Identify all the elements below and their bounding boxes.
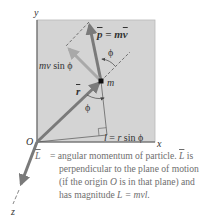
perp-component-sin: sin ϕ xyxy=(51,60,73,71)
origin-label: O xyxy=(26,137,33,147)
angle-label-bottom: ϕ xyxy=(85,103,90,113)
caption-line-1-prefix: = angular momentum of particle. xyxy=(50,150,179,161)
caption-line-4-formula: L = mvl. xyxy=(117,189,150,200)
caption-line-1-suffix: is xyxy=(184,150,193,161)
lever-arm-sin: sin ϕ xyxy=(121,132,143,143)
caption-line-3-symbol: O xyxy=(110,176,117,187)
z-axis-dashed xyxy=(13,190,19,204)
caption-line-3: (if the origin O is in that plane) and xyxy=(50,175,216,188)
mass-point xyxy=(99,79,104,84)
position-vector-label: r xyxy=(76,86,80,97)
caption-line-2: perpendicular to the plane of motion xyxy=(50,162,216,175)
mass-label: m xyxy=(107,78,114,88)
y-axis-label: y xyxy=(34,8,38,18)
angular-momentum-label: L xyxy=(35,151,41,161)
momentum-symbol-v: v xyxy=(123,28,128,40)
caption: = angular momentum of particle. L is per… xyxy=(50,149,216,201)
lever-arm-eq: = xyxy=(107,132,118,143)
perp-component-mv: mv xyxy=(39,60,51,71)
caption-line-4-prefix: has magnitude xyxy=(59,189,117,200)
momentum-equals: = m xyxy=(103,28,123,40)
perp-component-label: mv sin ϕ xyxy=(39,61,73,71)
angle-label-top: ϕ xyxy=(108,48,113,58)
lever-arm-label: l = r sin ϕ xyxy=(104,133,143,143)
z-axis-label: z xyxy=(11,207,15,217)
caption-line-3-prefix: (if the origin xyxy=(59,176,110,187)
momentum-label: p = mv xyxy=(97,29,128,40)
caption-line-3-suffix: is in that plane) and xyxy=(117,176,195,187)
x-axis-label: x xyxy=(157,139,161,149)
angular-momentum-vector-L xyxy=(21,142,37,184)
caption-line-1: = angular momentum of particle. L is xyxy=(50,149,216,162)
caption-line-4: has magnitude L = mvl. xyxy=(50,188,216,201)
